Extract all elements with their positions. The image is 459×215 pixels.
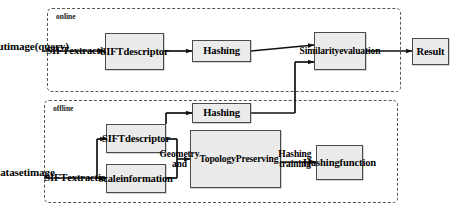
node-similarity-evaluation[interactable]: Similarityevaluation xyxy=(314,32,366,70)
node-sift-descriptor-offline[interactable]: SIFTdescriptor xyxy=(106,124,166,153)
node-result[interactable]: Result xyxy=(412,38,449,65)
node-dataset-image: Datasetimage xyxy=(1,156,46,188)
node-scale-information[interactable]: scaleinformation xyxy=(106,164,166,193)
node-gtp-hashing-training[interactable]: Geometry andTopologyPreservingHashing tr… xyxy=(190,130,281,188)
node-input-image: Inputimage(query) xyxy=(2,24,48,68)
node-hashing-offline[interactable]: Hashing xyxy=(192,103,251,123)
node-sift-descriptor-online[interactable]: SIFTdescriptor xyxy=(105,33,164,70)
node-hashing-function[interactable]: Hashingfunction xyxy=(316,145,363,180)
node-sift-extraction-offline: SIFTextraction xyxy=(50,164,106,192)
node-hashing-online[interactable]: Hashing xyxy=(192,40,251,62)
flowchart-diagram: online offline xyxy=(0,0,459,215)
